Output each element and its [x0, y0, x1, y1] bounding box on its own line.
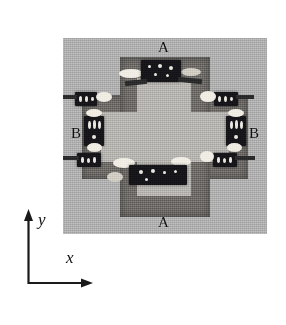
figure-panel: A A B B y x: [0, 0, 286, 325]
coordinate-axes: [0, 0, 286, 325]
y-axis-arrowhead: [24, 209, 33, 221]
x-axis-arrowhead: [81, 279, 93, 288]
x-axis-label: x: [66, 249, 74, 266]
y-axis-label: y: [38, 211, 46, 228]
